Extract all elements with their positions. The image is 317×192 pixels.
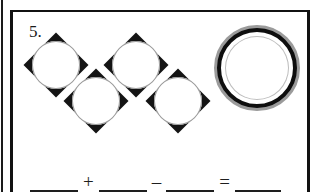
circle-hole <box>154 77 202 125</box>
diamond-circle-icon-3 <box>65 70 127 132</box>
problem-box: 5. <box>10 10 310 192</box>
equation-row: + – = <box>30 166 285 192</box>
operator-plus: + <box>78 172 99 192</box>
answer-blank-3[interactable] <box>166 175 214 192</box>
diamond-circle-icon-4 <box>147 70 209 132</box>
ring-icon <box>214 25 300 111</box>
answer-blank-1[interactable] <box>30 175 78 192</box>
worksheet-page: 5. + – <box>0 0 317 192</box>
answer-blank-2[interactable] <box>99 175 147 192</box>
circle-hole <box>72 77 120 125</box>
answer-blank-4[interactable] <box>235 175 281 192</box>
ring-inner-white <box>225 36 289 100</box>
operator-minus: – <box>147 172 167 192</box>
page-margin-rule <box>1 0 3 192</box>
operator-equals: = <box>214 172 235 192</box>
